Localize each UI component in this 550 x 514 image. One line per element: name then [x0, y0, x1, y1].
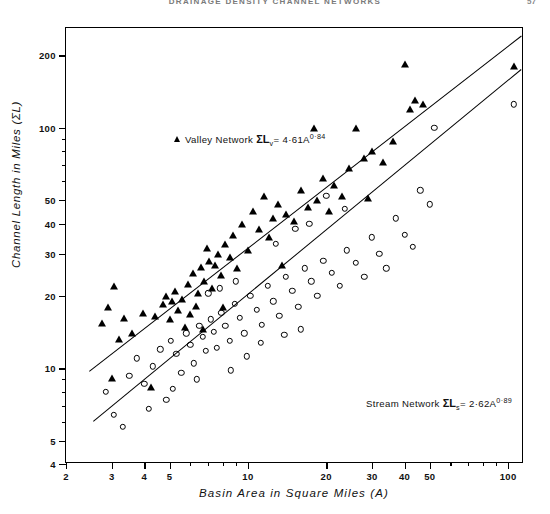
valley-point	[249, 208, 257, 215]
stream-point	[253, 307, 259, 313]
valley-point	[139, 309, 147, 316]
stream-point	[410, 244, 416, 250]
y-tick-30	[59, 254, 66, 255]
stream-point	[270, 298, 276, 304]
stream-point	[119, 424, 125, 430]
valley-point	[290, 217, 298, 224]
x-minor-tick-60	[450, 462, 451, 466]
y-tick-label-50: 50	[45, 195, 56, 206]
stream-point	[361, 274, 367, 280]
legend-valley-coef: 4·61	[282, 134, 303, 145]
stream-point	[233, 278, 239, 284]
stream-point	[276, 313, 282, 319]
x-tick-label-20: 20	[321, 471, 332, 482]
stream-point	[258, 339, 264, 345]
valley-point	[128, 330, 136, 337]
valley-point	[401, 60, 409, 67]
valley-point	[184, 280, 192, 287]
plot-area: 451020304050100200 23451020304050100 Val…	[65, 27, 523, 463]
stream-point	[247, 293, 253, 299]
y-tick-4	[59, 464, 66, 465]
annot-stream-coef: 2·62	[469, 398, 490, 409]
stream-point	[259, 321, 265, 327]
stream-point	[237, 315, 243, 321]
stream-point	[383, 265, 389, 271]
y-tick-label-4: 4	[50, 459, 56, 470]
valley-point	[151, 312, 159, 319]
stream-point	[222, 323, 228, 329]
valley-point	[217, 271, 225, 278]
valley-point	[338, 193, 346, 200]
x-tick-label-10: 10	[242, 471, 253, 482]
y-minor-tick-7	[62, 406, 66, 407]
valley-point	[174, 306, 182, 313]
legend-valley-label: Valley Network	[185, 134, 253, 145]
stream-point	[193, 376, 199, 382]
stream-point	[298, 326, 304, 332]
valley-point	[200, 278, 208, 285]
valley-point	[274, 201, 282, 208]
valley-point	[166, 316, 174, 323]
valley-point	[233, 265, 241, 272]
stream-point	[289, 288, 295, 294]
valley-point	[364, 195, 372, 202]
stream-point	[187, 342, 193, 348]
valley-point	[229, 231, 237, 238]
stream-point	[110, 412, 116, 418]
stream-point	[126, 373, 132, 379]
x-tick-20	[326, 462, 327, 469]
stream-point	[306, 220, 312, 226]
y-minor-tick-9	[62, 379, 66, 380]
valley-point	[226, 254, 234, 261]
stream-point	[511, 101, 517, 107]
stream-point	[281, 331, 287, 337]
x-tick-40	[405, 462, 406, 469]
y-axis-title: Channel Length in Miles (ΣL)	[10, 101, 22, 268]
valley-point	[120, 314, 128, 321]
valley-point	[115, 336, 123, 343]
triangle-marker-icon	[174, 136, 180, 142]
x-tick-2	[66, 462, 67, 469]
stream-point	[217, 285, 223, 291]
x-tick-10	[248, 462, 249, 469]
valley-point	[278, 261, 286, 268]
stream-point	[401, 231, 407, 237]
y-minor-tick-80	[62, 151, 66, 152]
stream-point	[273, 240, 279, 246]
stream-point	[145, 405, 151, 411]
valley-point	[211, 261, 219, 268]
x-tick-50	[430, 462, 431, 469]
valley-point	[104, 303, 112, 310]
y-tick-20	[59, 296, 66, 297]
valley-point	[192, 302, 200, 309]
x-tick-label-4: 4	[142, 471, 148, 482]
stream-point	[103, 388, 109, 394]
x-tick-4	[144, 462, 145, 469]
y-tick-100	[59, 128, 66, 129]
valley-point	[98, 319, 106, 326]
stream-point	[283, 274, 289, 280]
stream-point	[329, 269, 335, 275]
valley-point	[360, 154, 368, 161]
stream-point	[163, 397, 169, 403]
y-tick-label-40: 40	[45, 218, 56, 229]
stream-point	[203, 348, 209, 354]
x-tick-label-5: 5	[167, 471, 173, 482]
stream-point	[232, 301, 238, 307]
stream-point	[173, 350, 179, 356]
stream-point	[314, 293, 320, 299]
stream-point	[308, 278, 314, 284]
valley-point	[255, 225, 263, 232]
x-tick-label-50: 50	[424, 471, 435, 482]
x-minor-tick-6	[190, 462, 191, 466]
valley-point	[186, 311, 194, 318]
x-tick-label-30: 30	[366, 471, 377, 482]
stream-point	[431, 125, 437, 131]
x-tick-label-100: 100	[500, 471, 517, 482]
valley-point	[406, 105, 414, 112]
valley-point	[110, 282, 118, 289]
stream-point	[178, 369, 184, 375]
valley-point	[310, 124, 318, 131]
stream-point	[170, 386, 176, 392]
valley-point	[197, 263, 205, 270]
